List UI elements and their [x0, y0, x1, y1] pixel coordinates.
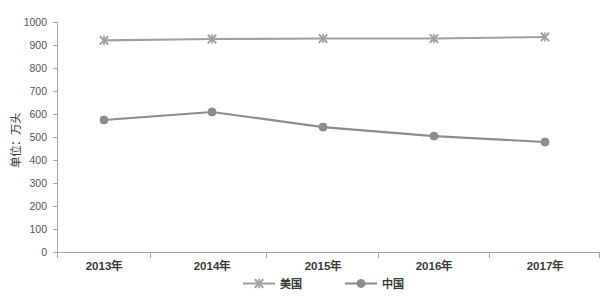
- data-point-2014年: [208, 108, 216, 116]
- y-tick-label: 200: [29, 200, 47, 212]
- legend-item-china[interactable]: 中国: [345, 277, 404, 290]
- y-tick-label: 1000: [24, 16, 48, 28]
- x-tick-label-2016: 2016年: [416, 259, 454, 272]
- y-axis-title: 单位：万头: [9, 113, 22, 168]
- y-tick-label: 300: [29, 177, 47, 189]
- x-tick-label-2017: 2017年: [527, 259, 565, 272]
- chart-canvas: 单位：万头 1000 900 800 700 600 500 400 300 2…: [0, 0, 608, 303]
- x-axis-tick-labels: 2013年 2014年 2015年 2016年 2017年: [86, 259, 565, 272]
- x-tick-label-2013: 2013年: [86, 259, 124, 272]
- y-axis-title-text: 单位：万头: [9, 113, 22, 168]
- y-tick-label: 500: [29, 131, 47, 143]
- y-tick-label: 400: [29, 154, 47, 166]
- y-tick-label: 700: [29, 85, 47, 97]
- data-point-2015年: [319, 123, 327, 131]
- series-layer: [100, 32, 549, 146]
- data-point-2016年: [430, 132, 438, 140]
- y-axis: [53, 22, 58, 253]
- x-axis: [58, 253, 601, 259]
- legend-label-china: 中国: [382, 277, 404, 290]
- x-tick-label-2015: 2015年: [305, 259, 343, 272]
- y-tick-label: 100: [29, 223, 47, 235]
- line-chart: 单位：万头 1000 900 800 700 600 500 400 300 2…: [0, 0, 608, 303]
- y-tick-label: 0: [41, 246, 47, 258]
- data-point-2013年: [100, 116, 108, 124]
- y-tick-label: 900: [29, 39, 47, 51]
- chart-legend: 美国 中国: [243, 277, 404, 290]
- series-china: [100, 108, 549, 146]
- legend-marker-glyph: [357, 280, 365, 288]
- x-tick-label-2014: 2014年: [194, 259, 232, 272]
- legend-marker-circle: [357, 280, 365, 288]
- legend-item-usa[interactable]: 美国: [243, 277, 302, 290]
- y-tick-label: 600: [29, 108, 47, 120]
- y-tick-label: 800: [29, 62, 47, 74]
- data-point-2017年: [541, 138, 549, 146]
- y-axis-tick-labels: 1000 900 800 700 600 500 400 300 200 100…: [24, 16, 48, 258]
- legend-label-usa: 美国: [280, 277, 302, 290]
- series-usa: [100, 32, 549, 45]
